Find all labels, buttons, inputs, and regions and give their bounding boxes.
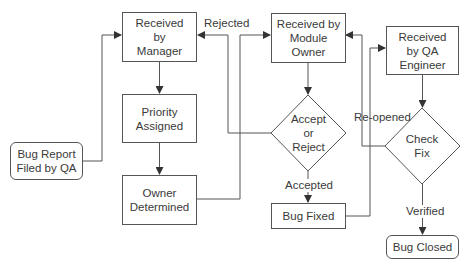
edge-fixed-to-qa [345, 48, 385, 216]
decision-check-fix: Check Fix [397, 130, 447, 162]
node-owner-line2: Determined [130, 200, 189, 214]
node-owner-line1: Owner [143, 186, 177, 200]
node-priority-line1: Priority [142, 105, 178, 119]
node-manager-line1: Received [136, 16, 184, 30]
edge-label-accepted: Accepted [285, 179, 333, 192]
node-priority-line2: Assigned [136, 119, 183, 133]
node-bug-fixed-label: Bug Fixed [283, 209, 335, 223]
node-bug-closed-label: Bug Closed [393, 240, 452, 254]
decision-accept-line1: Accept [291, 112, 326, 126]
edge-label-verified: Verified [406, 205, 444, 218]
decision-accept-line2: or [303, 126, 313, 140]
edge-owner-to-moduleowner [197, 35, 270, 199]
decision-accept-reject: Accept or Reject [281, 110, 336, 156]
node-bug-fixed: Bug Fixed [271, 203, 346, 229]
node-qa-line3: Engineer [399, 58, 445, 72]
node-bug-report: Bug Report Filed by QA [10, 142, 83, 180]
edge-label-rejected: Rejected [204, 17, 249, 30]
node-received-by-qa-engineer: Received by QA Engineer [386, 26, 459, 75]
node-received-by-manager: Received by Manager [122, 12, 197, 62]
decision-accept-line3: Reject [292, 140, 325, 154]
decision-check-line1: Check [406, 132, 439, 146]
node-received-by-module-owner: Received by Module Owner [271, 13, 346, 63]
node-bug-report-line2: Filed by QA [16, 161, 76, 175]
edge-rejected [198, 35, 271, 133]
node-module-owner-line2: Module [290, 31, 328, 45]
node-bug-closed: Bug Closed [386, 235, 459, 259]
decision-check-line2: Fix [414, 146, 429, 160]
node-module-owner-line3: Owner [292, 45, 326, 59]
node-owner-determined: Owner Determined [122, 175, 197, 225]
node-qa-line2: by QA [407, 44, 439, 58]
node-bug-report-line1: Bug Report [17, 147, 75, 161]
edge-bugreport-to-manager [83, 35, 121, 161]
node-manager-line3: Manager [137, 44, 182, 58]
edge-reopened [346, 35, 385, 146]
edge-label-reopened: Re-opened [354, 111, 411, 124]
node-module-owner-line1: Received by [277, 17, 340, 31]
node-priority-assigned: Priority Assigned [122, 94, 197, 143]
node-qa-line1: Received [399, 30, 447, 44]
node-manager-line2: by [153, 30, 165, 44]
